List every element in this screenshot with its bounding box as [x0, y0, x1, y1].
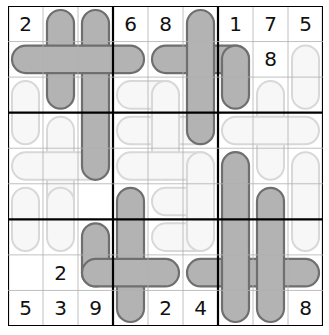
- empty-cell[interactable]: [183, 6, 218, 42]
- given-digit-cell: 4: [183, 290, 218, 326]
- empty-cell[interactable]: [183, 148, 218, 184]
- empty-cell[interactable]: [218, 184, 253, 220]
- empty-cell[interactable]: [113, 148, 148, 184]
- empty-cell[interactable]: [43, 219, 78, 255]
- empty-cell[interactable]: [78, 42, 113, 78]
- empty-cell[interactable]: [148, 219, 183, 255]
- empty-cell[interactable]: [183, 255, 218, 291]
- empty-cell[interactable]: [288, 113, 323, 149]
- empty-cell[interactable]: [183, 42, 218, 78]
- empty-cell[interactable]: [218, 255, 253, 291]
- empty-cell[interactable]: [253, 148, 288, 184]
- empty-cell[interactable]: [218, 290, 253, 326]
- empty-cell[interactable]: [183, 184, 218, 220]
- empty-cell[interactable]: [78, 219, 113, 255]
- empty-cell[interactable]: [78, 255, 113, 291]
- empty-cell[interactable]: [253, 113, 288, 149]
- empty-cell[interactable]: [113, 77, 148, 113]
- given-digit-cell: 5: [288, 6, 323, 42]
- empty-cell[interactable]: [113, 184, 148, 220]
- empty-cell[interactable]: [43, 77, 78, 113]
- empty-cell[interactable]: [218, 77, 253, 113]
- given-digit-cell: 3: [43, 290, 78, 326]
- given-digit-cell: 5: [8, 290, 43, 326]
- given-digit-cell: 6: [113, 6, 148, 42]
- empty-cell[interactable]: [288, 148, 323, 184]
- empty-cell[interactable]: [253, 184, 288, 220]
- given-digit-cell: 8: [148, 6, 183, 42]
- empty-cell[interactable]: [148, 184, 183, 220]
- given-digit-cell: 7: [253, 6, 288, 42]
- empty-cell[interactable]: [78, 148, 113, 184]
- empty-cell[interactable]: [288, 77, 323, 113]
- empty-cell[interactable]: [8, 219, 43, 255]
- empty-cell[interactable]: [78, 113, 113, 149]
- empty-cell[interactable]: [113, 219, 148, 255]
- empty-cell[interactable]: [148, 77, 183, 113]
- empty-cell[interactable]: [113, 255, 148, 291]
- empty-cell[interactable]: [253, 255, 288, 291]
- empty-cell[interactable]: [8, 255, 43, 291]
- empty-cell[interactable]: [183, 113, 218, 149]
- empty-cell[interactable]: [148, 42, 183, 78]
- empty-cell[interactable]: [288, 255, 323, 291]
- empty-cell[interactable]: [218, 113, 253, 149]
- empty-cell[interactable]: [218, 219, 253, 255]
- given-digit-cell: 8: [253, 42, 288, 78]
- empty-cell[interactable]: [253, 290, 288, 326]
- empty-cell[interactable]: [8, 42, 43, 78]
- empty-cell[interactable]: [288, 184, 323, 220]
- given-digit-cell: 2: [148, 290, 183, 326]
- empty-cell[interactable]: [43, 6, 78, 42]
- empty-cell[interactable]: [253, 77, 288, 113]
- empty-cell[interactable]: [148, 148, 183, 184]
- empty-cell[interactable]: [8, 77, 43, 113]
- empty-cell[interactable]: [183, 219, 218, 255]
- given-digit-cell: 2: [8, 6, 43, 42]
- empty-cell[interactable]: [183, 77, 218, 113]
- empty-cell[interactable]: [113, 113, 148, 149]
- empty-cell[interactable]: [8, 148, 43, 184]
- empty-cell[interactable]: [218, 42, 253, 78]
- empty-cell[interactable]: [43, 148, 78, 184]
- empty-cell[interactable]: [78, 77, 113, 113]
- given-digit-cell: 9: [78, 290, 113, 326]
- empty-cell[interactable]: [253, 219, 288, 255]
- empty-cell[interactable]: [218, 148, 253, 184]
- empty-cell[interactable]: [43, 113, 78, 149]
- empty-cell[interactable]: [78, 6, 113, 42]
- empty-cell[interactable]: [148, 113, 183, 149]
- empty-cell[interactable]: [288, 42, 323, 78]
- given-digit-cell: 8: [288, 290, 323, 326]
- empty-cell[interactable]: [113, 290, 148, 326]
- empty-cell[interactable]: [8, 184, 43, 220]
- empty-cell[interactable]: [288, 219, 323, 255]
- sudoku-board[interactable]: 26817582539248: [8, 6, 323, 326]
- given-digit-cell: 1: [218, 6, 253, 42]
- empty-cell[interactable]: [148, 255, 183, 291]
- empty-cell[interactable]: [43, 42, 78, 78]
- empty-cell[interactable]: [78, 184, 113, 220]
- empty-cell[interactable]: [8, 113, 43, 149]
- empty-cell[interactable]: [43, 184, 78, 220]
- empty-cell[interactable]: [113, 42, 148, 78]
- given-digit-cell: 2: [43, 255, 78, 291]
